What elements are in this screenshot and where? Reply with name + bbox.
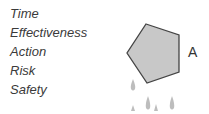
pentagon-shape [127, 24, 179, 83]
pentagon-figure [0, 0, 209, 114]
drops-icon [131, 79, 175, 111]
shape-label: A [188, 44, 197, 60]
